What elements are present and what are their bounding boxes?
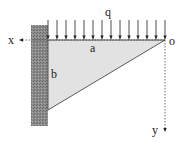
arrow-down-icon (73, 36, 76, 41)
arrow-down-icon (109, 36, 112, 41)
arrow-down-icon (55, 36, 58, 41)
origin-label-o: o (169, 34, 175, 48)
arrow-down-icon (136, 36, 139, 41)
diagram-svg: q a b o x y (0, 0, 180, 143)
arrow-down-icon (118, 36, 121, 41)
arrow-down-icon (163, 36, 166, 41)
arrow-down-icon (91, 36, 94, 41)
edge-label-a: a (90, 41, 96, 55)
arrow-down-icon (64, 36, 67, 41)
arrow-down-icon (100, 36, 103, 41)
diagram-canvas: q a b o x y (0, 0, 180, 143)
arrow-down-icon (145, 36, 148, 41)
x-axis-label: x (8, 33, 14, 47)
y-axis-arrowhead-icon (163, 128, 166, 132)
y-axis-label: y (152, 123, 158, 137)
fixed-wall-support (31, 25, 48, 126)
triangular-plate (48, 40, 165, 110)
arrow-down-icon (127, 36, 130, 41)
distributed-load-arrows (46, 20, 166, 40)
edge-label-b: b (51, 67, 57, 81)
load-label-q: q (105, 5, 111, 19)
arrow-down-icon (82, 36, 85, 41)
x-axis-arrowhead-icon (19, 38, 23, 41)
arrow-down-icon (154, 36, 157, 41)
